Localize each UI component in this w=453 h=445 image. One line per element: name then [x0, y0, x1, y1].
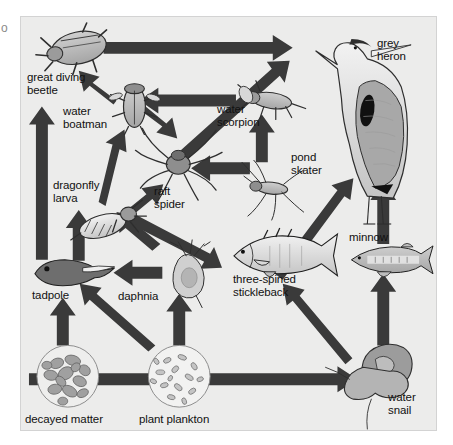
label-dragonfly-larva: dragonfly larva [53, 179, 99, 205]
arrow-beetle-to-heron [104, 35, 293, 61]
three-spined-stickleback-icon [234, 228, 337, 277]
label-plant-plankton: plant plankton [139, 413, 209, 426]
arrow-tadpole-to-beetle [29, 107, 55, 260]
food-web-figure: great diving beetle water boatman dragon… [20, 16, 437, 431]
plant-plankton-icon [148, 345, 210, 407]
label-decayed-matter: decayed matter [25, 413, 103, 426]
organism-artwork-layer [35, 23, 433, 429]
arrow-dragonfly-to-boatman [99, 129, 127, 206]
label-water-boatman: water boatman [63, 105, 107, 131]
label-daphnia: daphnia [118, 290, 158, 303]
label-tadpole: tadpole [32, 289, 69, 302]
page-canvas: o [0, 0, 453, 445]
great-diving-beetle-icon [36, 23, 109, 75]
label-great-diving-beetle: great diving beetle [27, 71, 85, 97]
grey-heron-icon [316, 39, 412, 224]
label-pond-skater: pond skater [291, 151, 322, 177]
arrow-pondskater-to-raftspider [191, 155, 250, 181]
decayed-matter-icon [37, 345, 99, 407]
arrow-plankton-to-daphnia [166, 294, 192, 346]
minnow-icon [351, 243, 433, 276]
margin-glyph: o [1, 22, 8, 34]
arrow-decayed-to-tadpole [50, 298, 76, 346]
arrow-watersnail-to-minnow [370, 274, 396, 346]
arrow-dragonfly-to-stickleback [125, 212, 223, 269]
arrow-daphnia-to-tadpole [114, 260, 163, 286]
label-minnow: minnow [349, 231, 388, 244]
label-grey-heron: grey heron [377, 37, 406, 63]
label-three-spined-stickleback: three-spined stickleback [233, 273, 296, 299]
label-water-snail: water snail [388, 391, 416, 417]
label-water-scorpion: water scorpion [217, 103, 260, 129]
label-raft-spider: raft spider [154, 185, 185, 211]
tadpole-icon [35, 260, 115, 286]
